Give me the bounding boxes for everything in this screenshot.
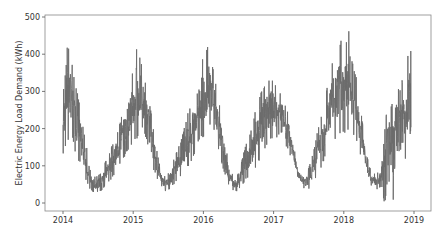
x-tick-label: 2019 — [404, 216, 424, 225]
x-tick-label: 2018 — [334, 216, 354, 225]
x-axis: 201420152016201720182019 — [53, 211, 424, 225]
x-tick-label: 2017 — [263, 216, 283, 225]
y-tick-label: 400 — [25, 50, 40, 59]
x-tick-label: 2015 — [123, 216, 143, 225]
y-tick-label: 300 — [25, 87, 40, 96]
y-axis-label: Electric Energy Load Demand (kWh) — [15, 41, 24, 186]
x-tick-label: 2014 — [53, 216, 73, 225]
line-chart: 0100200300400500 20142015201620172018201… — [0, 0, 446, 236]
y-tick-label: 0 — [35, 199, 40, 208]
x-tick-label: 2016 — [193, 216, 213, 225]
y-tick-label: 200 — [25, 125, 40, 134]
y-tick-label: 100 — [25, 162, 40, 171]
y-tick-label: 500 — [25, 13, 40, 22]
y-axis: 0100200300400500 — [25, 13, 45, 208]
